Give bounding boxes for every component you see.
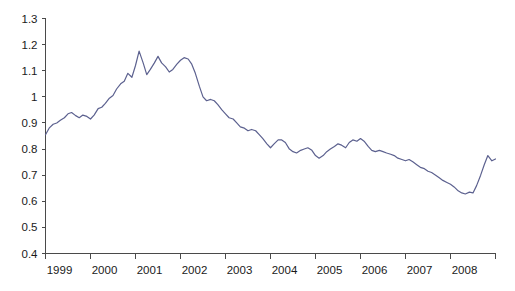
y-tick-label: 1.2 [22,39,38,51]
x-tick-label: 1999 [47,264,73,276]
plot-area [46,51,496,194]
x-tick-label: 2002 [182,264,208,276]
x-tick-label: 2007 [407,264,433,276]
x-axis-ticks: 1999200020012002200320042005200620072008 [46,254,496,276]
y-tick-label: 0.4 [22,248,39,260]
y-tick-label: 1.3 [22,13,38,25]
x-tick-label: 2003 [227,264,253,276]
y-axis-ticks: 0.40.50.60.70.80.911.11.21.3 [22,13,46,260]
y-tick-label: 1.1 [22,65,38,77]
x-tick-label: 2005 [317,264,343,276]
y-tick-label: 0.8 [22,143,38,155]
x-axis-group: 1999200020012002200320042005200620072008 [46,254,496,276]
y-tick-label: 0.7 [22,169,38,181]
y-tick-label: 0.5 [22,221,38,233]
y-tick-label: 0.6 [22,195,38,207]
y-tick-label: 0.9 [22,117,38,129]
x-tick-label: 2008 [452,264,478,276]
y-tick-label: 1 [31,91,37,103]
y-axis-group: 0.40.50.60.70.80.911.11.21.3 [22,13,46,260]
chart-canvas: 0.40.50.60.70.80.911.11.21.3 19992000200… [0,0,515,291]
x-tick-label: 2004 [272,264,298,276]
x-tick-label: 2006 [362,264,388,276]
data-series-line [46,51,496,194]
line-chart: 0.40.50.60.70.80.911.11.21.3 19992000200… [0,0,515,291]
x-tick-label: 2000 [92,264,118,276]
x-tick-label: 2001 [137,264,163,276]
